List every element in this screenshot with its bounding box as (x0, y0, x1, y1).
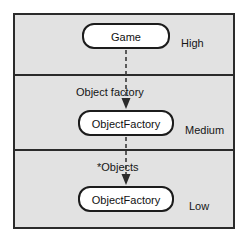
node-objectfactory-medium[interactable]: ObjectFactory (78, 110, 174, 136)
tier-label-low: Low (189, 200, 209, 212)
tier-label-medium: Medium (185, 124, 224, 136)
layer-medium: Object factory ObjectFactory Medium (15, 76, 233, 151)
edge-label-object-factory: Object factory (76, 86, 144, 98)
layered-architecture-diagram: Game High Object factory ObjectFactory M… (0, 0, 249, 244)
node-objectfactory-low[interactable]: ObjectFactory (78, 186, 174, 212)
tier-label-high: High (181, 37, 204, 49)
node-game[interactable]: Game (82, 23, 170, 49)
layer-high: Game High (15, 15, 233, 76)
layer-low: *Objects ObjectFactory Low (15, 151, 233, 227)
edge-label-objects: *Objects (97, 161, 139, 173)
layer-stack: Game High Object factory ObjectFactory M… (13, 13, 235, 229)
